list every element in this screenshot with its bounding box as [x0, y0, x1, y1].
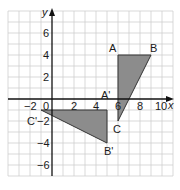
vertex-label-a: A	[109, 42, 117, 54]
y-axis-arrow-icon	[49, 8, 55, 16]
vertex-label-b-prime: B'	[104, 145, 113, 157]
y-tick-label: −6	[37, 159, 50, 171]
vertex-label-c-prime: C'	[27, 115, 37, 127]
grid	[8, 11, 173, 176]
y-tick-label: −4	[37, 137, 50, 149]
coordinate-grid-diagram: y x −2 0 2 4 6 8 10 6 4 2 −2 −4 −6 A B C…	[0, 0, 180, 190]
y-tick-label: −2	[37, 115, 50, 127]
y-axis-label: y	[41, 6, 49, 18]
x-tick-label: 4	[93, 100, 99, 112]
x-tick-label: 10	[155, 100, 167, 112]
x-axis-label: x	[167, 99, 174, 111]
vertex-label-b: B	[150, 42, 157, 54]
y-tick-label: 4	[43, 49, 49, 61]
y-tick-label: 6	[43, 27, 49, 39]
x-tick-label: 6	[115, 100, 121, 112]
x-tick-label: 2	[71, 100, 77, 112]
vertex-label-a-prime: A'	[101, 89, 110, 101]
x-tick-label: 8	[137, 100, 143, 112]
x-tick-label: 0	[43, 100, 49, 112]
x-tick-label: −2	[24, 100, 37, 112]
vertex-label-c: C	[113, 123, 121, 135]
y-tick-label: 2	[43, 71, 49, 83]
